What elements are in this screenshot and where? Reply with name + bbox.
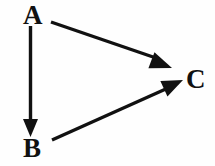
edge-a-to-c: [51, 22, 172, 68]
edge-a-to-b: [23, 26, 38, 137]
node-label-b: B: [23, 135, 41, 162]
edge-b-to-c: [52, 80, 183, 140]
node-label-c: C: [186, 66, 206, 93]
node-label-a: A: [23, 2, 43, 29]
edge-b-to-c-arrowhead: [160, 80, 183, 96]
edge-b-to-c-shaft: [52, 88, 168, 140]
edge-a-to-c-shaft: [51, 22, 156, 58]
edge-a-to-c-arrowhead: [148, 52, 172, 68]
diagram-canvas: A B C: [0, 0, 215, 166]
